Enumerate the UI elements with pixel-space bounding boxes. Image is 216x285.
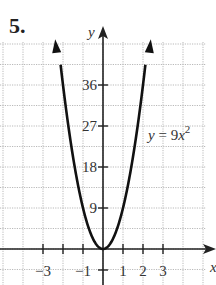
x-tick-label: 1 <box>119 263 127 279</box>
y-tick-label: 18 <box>82 159 97 175</box>
x-tick-label: −3 <box>35 263 51 279</box>
x-tick-label: −1 <box>75 263 91 279</box>
x-tick-label: 3 <box>159 263 167 279</box>
y-tick-label: 27 <box>82 118 98 134</box>
parabola-chart: −3−11239182736 y = 9x2 y x <box>0 0 216 285</box>
x-axis-label: x <box>209 259 216 275</box>
y-axis-label: y <box>86 24 95 40</box>
y-tick-label: 36 <box>82 77 98 93</box>
y-tick-label: 9 <box>90 200 98 216</box>
x-tick-label: 2 <box>139 263 147 279</box>
